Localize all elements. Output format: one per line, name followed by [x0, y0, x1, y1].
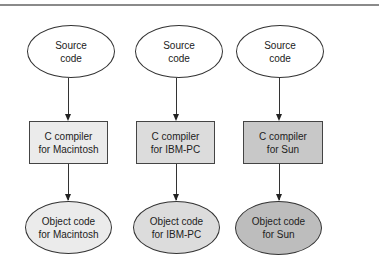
compiler-node-mac: C compiler for Macintosh	[29, 121, 108, 164]
arrow-down-icon	[173, 194, 179, 201]
node-label: Source code	[163, 39, 195, 65]
node-label: C compiler for IBM-PC	[151, 130, 200, 156]
object-code-node-mac: Object code for Macintosh	[25, 201, 112, 254]
object-code-node-ibm: Object code for IBM-PC	[133, 201, 220, 254]
connector-line	[279, 78, 280, 114]
compiler-node-sun: C compiler for Sun	[243, 121, 323, 164]
connector-line	[68, 78, 69, 114]
connector-line	[176, 78, 177, 114]
node-label: Source code	[55, 39, 87, 65]
top-rule	[0, 4, 379, 6]
arrow-down-icon	[65, 194, 71, 201]
node-label: C compiler for Sun	[259, 130, 307, 156]
source-code-node-sun: Source code	[236, 25, 324, 78]
node-label: Source code	[264, 39, 296, 65]
node-label: C compiler for Macintosh	[38, 130, 98, 156]
arrow-down-icon	[173, 114, 179, 121]
arrow-down-icon	[276, 114, 282, 121]
compiler-node-ibm: C compiler for IBM-PC	[136, 121, 215, 164]
node-label: Object code for Sun	[252, 215, 305, 241]
object-code-node-sun: Object code for Sun	[235, 201, 322, 255]
node-label: Object code for IBM-PC	[150, 215, 203, 241]
node-label: Object code for Macintosh	[38, 215, 98, 241]
source-code-node-mac: Source code	[27, 25, 115, 78]
arrow-down-icon	[276, 194, 282, 201]
arrow-down-icon	[65, 114, 71, 121]
source-code-node-ibm: Source code	[135, 25, 223, 78]
